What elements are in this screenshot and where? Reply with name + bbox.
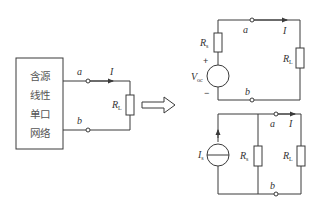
load-resistor bbox=[126, 95, 134, 115]
thevenin-load-resistor bbox=[296, 48, 304, 68]
left-circuit: a b I RL bbox=[63, 66, 134, 132]
thevenin-terminal-a-label: a bbox=[243, 24, 248, 35]
norton-terminal-a bbox=[274, 112, 278, 116]
source-resistor bbox=[214, 33, 222, 52]
terminal-a bbox=[86, 79, 90, 83]
terminal-a-label: a bbox=[77, 66, 82, 77]
terminal-b-label: b bbox=[77, 115, 82, 126]
shunt-resistor bbox=[254, 146, 262, 166]
norton-circuit: Is Rs a b I RL bbox=[197, 112, 305, 196]
hollow-right-arrow-icon bbox=[142, 97, 175, 113]
network-label-line-1: 含源 bbox=[30, 70, 51, 82]
source-resistor-label: Rs bbox=[199, 37, 209, 49]
minus-sign: − bbox=[204, 88, 209, 98]
shunt-resistor-label: Rs bbox=[239, 150, 249, 162]
network-label-line-4: 网络 bbox=[30, 127, 51, 139]
thevenin-terminal-a bbox=[250, 18, 254, 22]
norton-terminal-a-label: a bbox=[270, 118, 275, 129]
current-source-label: Is bbox=[197, 149, 204, 161]
voltage-source bbox=[207, 65, 229, 87]
thevenin-terminal-b bbox=[250, 98, 254, 102]
norton-terminal-b-label: b bbox=[270, 180, 275, 191]
voltage-source-label: Voc bbox=[191, 71, 203, 83]
thevenin-circuit: Rs + Voc − a b I RL bbox=[191, 18, 304, 102]
norton-terminal-b bbox=[274, 192, 278, 196]
network-box: 含源 线性 单口 网络 bbox=[16, 58, 63, 149]
norton-load-resistor bbox=[297, 146, 305, 166]
terminal-b bbox=[86, 128, 90, 132]
plus-sign: + bbox=[203, 56, 208, 66]
norton-load-label: RL bbox=[282, 150, 293, 162]
network-label-line-2: 线性 bbox=[30, 89, 50, 101]
current-label: I bbox=[109, 66, 114, 77]
circuit-figure: 含源 线性 单口 网络 a b I RL bbox=[0, 0, 336, 210]
load-label: RL bbox=[111, 99, 122, 111]
thevenin-current-label: I bbox=[282, 25, 287, 36]
thevenin-load-label: RL bbox=[282, 53, 293, 65]
norton-current-label: I bbox=[288, 118, 293, 129]
thevenin-terminal-b-label: b bbox=[245, 86, 250, 97]
network-label-line-3: 单口 bbox=[30, 108, 50, 120]
